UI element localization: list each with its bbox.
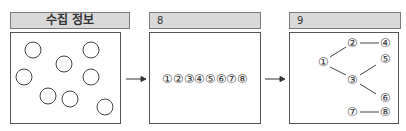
- node-2: ②: [347, 37, 358, 49]
- node-5: ⑤: [380, 53, 391, 65]
- node-6: ⑥: [380, 92, 391, 104]
- panel-3-header: 9: [289, 12, 401, 29]
- node-7: ⑦: [347, 106, 358, 118]
- panel-2-header: 8: [149, 12, 261, 29]
- numbered-sequence: ①②③④⑤⑥⑦⑧: [150, 72, 260, 86]
- panel-1-header: 수집 정보: [10, 12, 130, 29]
- node-8: ⑧: [380, 106, 391, 118]
- scattered-circles: [11, 33, 122, 125]
- panel-2-body: ①②③④⑤⑥⑦⑧: [149, 32, 261, 124]
- panel-3-body: ① ② ④ ⑤ ③ ⑥ ⑦ ⑧: [289, 32, 399, 124]
- panel-1-body: [10, 32, 121, 124]
- node-3: ③: [347, 74, 358, 86]
- node-4: ④: [380, 37, 391, 49]
- node-1: ①: [318, 56, 329, 68]
